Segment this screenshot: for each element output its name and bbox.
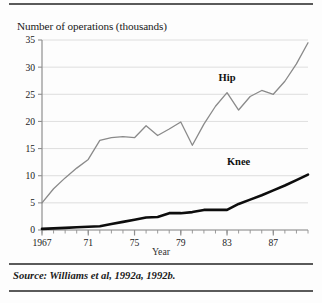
middle-rule [9, 263, 313, 265]
series-lines-group [42, 43, 308, 229]
series-line-knee [42, 175, 308, 229]
y-tick-label: 25 [25, 89, 35, 100]
top-rule [9, 3, 313, 5]
plot-area: 05101520253035 19677175798387 HipKnee [0, 32, 322, 252]
y-tick-label: 15 [25, 143, 35, 154]
y-tick-label: 10 [25, 170, 35, 181]
chart-title: Number of operations (thousands) [17, 20, 167, 32]
series-labels-group: HipKnee [219, 72, 251, 167]
y-tick-label: 30 [25, 62, 35, 73]
line-chart-svg: 05101520253035 19677175798387 HipKnee [0, 32, 322, 252]
gridlines-group [42, 40, 308, 230]
y-tick-label: 20 [25, 116, 35, 127]
x-axis-title: Year [0, 246, 322, 257]
y-tick-label: 5 [30, 197, 35, 208]
y-tick-label: 35 [25, 34, 35, 45]
series-label-hip: Hip [219, 72, 236, 83]
series-label-knee: Knee [227, 156, 251, 167]
y-tick-label: 0 [30, 224, 35, 235]
series-line-hip [42, 43, 308, 203]
ytick-labels-group: 05101520253035 [25, 34, 35, 235]
bottom-rule [9, 290, 313, 292]
source-note: Source: Williams et al, 1992a, 1992b. [13, 270, 175, 281]
figure-container: Number of operations (thousands) 0510152… [0, 0, 322, 303]
